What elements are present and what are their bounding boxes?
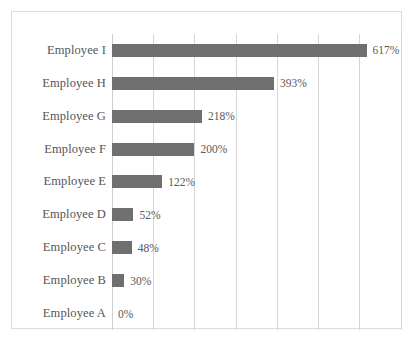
category-label: Employee G xyxy=(12,109,106,124)
bar-chart: Employee I617%Employee H393%Employee G21… xyxy=(0,0,414,345)
bar-value-label: 52% xyxy=(139,209,160,221)
category-label: Employee H xyxy=(12,76,106,91)
bar-row[interactable]: Employee A0% xyxy=(12,297,414,330)
bar-value-label: 0% xyxy=(118,308,133,320)
bar-row[interactable]: Employee E122% xyxy=(12,166,414,199)
bar-container: 30% xyxy=(112,264,151,297)
plot-area: Employee I617%Employee H393%Employee G21… xyxy=(112,34,414,330)
category-label: Employee C xyxy=(12,240,106,255)
bar-container: 0% xyxy=(112,297,133,330)
bar-value-label: 393% xyxy=(280,77,307,89)
bar-container: 200% xyxy=(112,133,227,166)
category-label: Employee I xyxy=(12,43,106,58)
bar[interactable] xyxy=(112,77,274,90)
bar-row[interactable]: Employee G218% xyxy=(12,100,414,133)
bar[interactable] xyxy=(112,44,367,57)
bar-container: 48% xyxy=(112,231,159,264)
bar-rows: Employee I617%Employee H393%Employee G21… xyxy=(12,34,414,330)
bar-container: 52% xyxy=(112,198,161,231)
bar-row[interactable]: Employee F200% xyxy=(12,133,414,166)
bar-row[interactable]: Employee D52% xyxy=(12,198,414,231)
bar-value-label: 617% xyxy=(373,44,400,56)
bar-row[interactable]: Employee I617% xyxy=(12,34,414,67)
bar-row[interactable]: Employee B30% xyxy=(12,264,414,297)
bar-row[interactable]: Employee H393% xyxy=(12,67,414,100)
bar-container: 122% xyxy=(112,166,195,199)
category-label: Employee F xyxy=(12,142,106,157)
bar-container: 617% xyxy=(112,34,399,67)
bar[interactable] xyxy=(112,143,194,156)
category-label: Employee A xyxy=(12,306,106,321)
category-label: Employee E xyxy=(12,174,106,189)
bar-container: 218% xyxy=(112,100,235,133)
bar-value-label: 122% xyxy=(168,176,195,188)
bar-container: 393% xyxy=(112,67,307,100)
bar-value-label: 30% xyxy=(130,275,151,287)
category-label: Employee B xyxy=(12,273,106,288)
bar[interactable] xyxy=(112,241,132,254)
bar-value-label: 200% xyxy=(200,143,227,155)
bar-row[interactable]: Employee C48% xyxy=(12,231,414,264)
bar[interactable] xyxy=(112,110,202,123)
bar[interactable] xyxy=(112,274,124,287)
bar[interactable] xyxy=(112,175,162,188)
category-label: Employee D xyxy=(12,207,106,222)
bar[interactable] xyxy=(112,208,133,221)
chart-frame: Employee I617%Employee H393%Employee G21… xyxy=(11,11,402,329)
bar-value-label: 218% xyxy=(208,110,235,122)
bar-value-label: 48% xyxy=(138,242,159,254)
